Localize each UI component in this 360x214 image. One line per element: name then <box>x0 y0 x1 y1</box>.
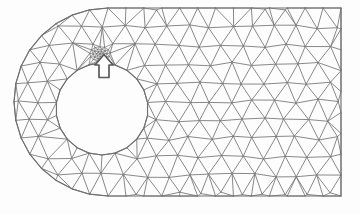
mesh-edge <box>209 102 220 120</box>
mesh-edge <box>253 26 266 47</box>
mesh-edge <box>318 99 338 101</box>
mesh-edge <box>91 54 94 56</box>
mesh-edge <box>21 136 38 138</box>
mesh-edge <box>190 158 198 175</box>
mesh-edge <box>16 119 29 120</box>
mesh-edge <box>42 36 50 46</box>
mesh-edge <box>107 54 110 57</box>
mesh-edge <box>287 83 296 104</box>
mesh-edge <box>276 64 288 82</box>
mesh-edge <box>200 82 209 102</box>
mesh-edge <box>232 156 243 173</box>
mesh-edge <box>323 8 337 28</box>
mesh-edge <box>167 25 190 26</box>
mesh-edge <box>296 175 316 177</box>
mesh-edge <box>28 62 40 82</box>
mesh-edge <box>211 62 233 66</box>
mesh-edge <box>276 136 285 156</box>
mesh-edge <box>221 192 234 196</box>
mesh-edge <box>82 26 94 44</box>
mesh-edge <box>284 103 296 119</box>
mesh-edge <box>234 27 244 46</box>
mesh-edge <box>38 81 47 103</box>
mesh-edge <box>30 136 38 154</box>
mesh-edge <box>90 50 92 53</box>
mesh-edge <box>199 121 212 140</box>
mesh-canvas <box>0 0 360 214</box>
mesh-edge <box>232 62 241 84</box>
mesh-edge <box>148 156 157 177</box>
mesh-edge <box>148 84 158 103</box>
mesh-edge <box>296 103 309 119</box>
mesh-edge <box>156 120 169 141</box>
mesh-edge <box>318 47 331 63</box>
mesh-edge <box>101 173 123 174</box>
mesh-edge <box>305 47 318 63</box>
mesh-edge <box>169 140 178 155</box>
mesh-edge <box>276 177 285 195</box>
mesh-edge <box>16 101 19 120</box>
mesh-edge <box>296 177 305 196</box>
mesh-edge <box>199 47 210 66</box>
mesh-edge <box>147 138 156 156</box>
mesh-edge <box>56 175 58 180</box>
mesh-edge <box>305 29 317 47</box>
mesh-edge <box>180 8 190 25</box>
mesh-edge <box>264 83 287 85</box>
mesh-edge <box>102 8 108 27</box>
mesh-edge <box>309 99 318 119</box>
mesh-edge <box>179 103 191 122</box>
mesh-edge <box>265 47 275 64</box>
mesh-edge <box>188 121 200 137</box>
mesh-edge <box>108 8 125 25</box>
mesh-edge <box>296 25 317 28</box>
mesh-edge <box>148 101 166 102</box>
mesh-edge <box>296 157 307 176</box>
mesh-edge <box>298 47 305 64</box>
mesh-edge <box>274 10 285 25</box>
mesh-edge <box>59 43 72 64</box>
mesh-edge <box>101 155 102 173</box>
mesh-edge <box>265 44 286 47</box>
mesh-edge <box>294 136 306 157</box>
mesh-edge <box>135 44 144 66</box>
mesh-edge <box>189 47 200 65</box>
mesh-edge <box>82 173 90 194</box>
mesh-edge <box>38 128 60 136</box>
mesh-edge <box>275 83 288 101</box>
mesh-edge <box>309 120 328 122</box>
mesh-edge <box>125 8 144 25</box>
mesh-edge <box>208 174 220 192</box>
mesh-edge <box>319 137 338 140</box>
mesh-edge <box>264 136 277 159</box>
mesh-edge <box>251 65 264 84</box>
mesh-edge <box>252 118 265 137</box>
mesh-edge <box>243 46 265 47</box>
mesh-edge <box>18 83 27 101</box>
mesh-edge <box>287 8 296 25</box>
mesh-edge <box>211 66 223 84</box>
mesh-edge <box>201 174 209 194</box>
mesh-edge <box>243 137 251 156</box>
mesh-edge <box>223 62 232 83</box>
mesh-edge <box>18 101 29 119</box>
mesh-edge <box>220 121 233 136</box>
mesh-edge <box>89 153 101 173</box>
mesh-edge <box>169 122 179 141</box>
mesh-edge <box>252 100 265 118</box>
mesh-edge <box>209 84 223 103</box>
mesh-edge <box>298 63 318 64</box>
mesh-edge <box>156 155 177 156</box>
mesh-edge <box>286 25 296 44</box>
mesh-edge <box>125 25 135 43</box>
mesh-edge <box>232 84 241 103</box>
mesh-edge <box>211 45 221 65</box>
mesh-edge <box>255 174 276 177</box>
mesh-edge <box>189 65 200 82</box>
mesh-edge <box>276 119 283 136</box>
mesh-edge <box>21 119 29 138</box>
mesh-edge <box>243 156 263 159</box>
mesh-edge <box>82 26 103 27</box>
mesh-edge <box>331 154 341 156</box>
mesh-edge <box>179 25 190 46</box>
